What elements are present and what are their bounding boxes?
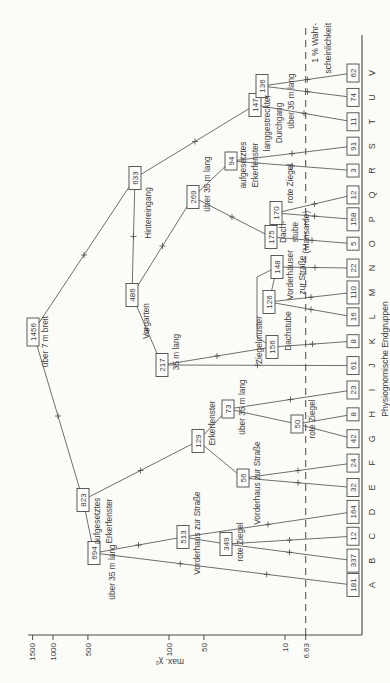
end-group-count: 32 [349,482,358,491]
cluster-node-count: 94 [227,156,236,165]
cluster-node-attribute-label: Erkerfenster [250,142,260,187]
end-group-count: 62 [349,68,358,77]
cluster-node-count: 56 [239,473,248,482]
cluster-node-count: 126 [265,295,274,309]
cluster-node-attribute-label: über 35 m lang [237,379,247,435]
cluster-node-attribute-label: über 35 m lang [286,73,296,129]
end-group-count: 23 [349,385,358,394]
cluster-node-count: 148 [273,260,282,274]
cluster-node-attribute-label: Vorderhaus zur Straße [252,441,262,525]
y-axis-tick-label-significance: 6.63 [302,642,311,658]
cluster-node-attribute-label: (Mansarde) [301,211,311,254]
cluster-node-attribute-label: Vorgarten [141,303,151,339]
end-group-count: 91 [349,141,358,150]
cluster-node-attribute-label: 35 m lang [171,333,181,370]
cluster-node-count: 269 [189,190,198,204]
end-group-letter: G [367,435,377,442]
end-group-count: 12 [349,531,358,540]
end-group-count: 61 [349,361,358,370]
cluster-node-attribute-label: stube [290,221,300,242]
cluster-node-count: 1456 [29,323,38,341]
cluster-node-attribute-label: über 35 m lang [202,156,212,212]
scanned-figure-page: 1 % Wahr-scheinlichkeit15001000500100501… [0,0,390,683]
end-group-letter: E [367,484,377,490]
cluster-node-attribute-label: Vorderhaus zur Straße [192,491,202,575]
cluster-node-count: 217 [158,358,167,372]
cluster-node-count: 73 [224,404,233,413]
cluster-node-count: 50 [293,419,302,428]
cluster-node-attribute-label: Hintereingang [143,187,153,239]
end-group-letter: H [367,411,377,418]
end-group-count: 164 [349,505,358,519]
end-group-letter: A [367,582,377,588]
end-group-letter: L [367,314,377,319]
cluster-node-count: 147 [251,98,260,112]
end-group-count: 181 [349,578,358,592]
y-axis-tick-label: 100 [165,642,174,656]
end-group-letter: B [367,558,377,564]
significance-label: 1 % Wahr- [310,23,320,63]
y-axis-tick-label: 50 [200,642,209,651]
cluster-node-count: 175 [267,230,276,244]
cluster-node-attribute-label: zur Straße [297,255,307,294]
end-group-letter: D [367,508,377,515]
cluster-node-count: 129 [194,434,203,448]
cluster-node-count: 136 [258,79,267,93]
end-group-letter: T [367,119,377,125]
cluster-node-count: 156 [268,340,277,354]
cluster-node-attribute-label: Dach- [278,221,288,243]
dendrogram-canvas-rotated: 1 % Wahr-scheinlichkeit15001000500100501… [0,0,390,683]
cluster-node-attribute-label: Vorderhäuser [285,250,295,300]
end-group-letter: C [367,532,377,539]
end-group-count: 22 [349,263,358,272]
y-axis-tick-label: 500 [84,642,93,656]
end-group-count: 110 [349,286,358,299]
end-group-letter: J [367,363,377,368]
end-group-count: 3 [349,168,358,173]
x-axis-title: Physiognomische Endgruppen [380,301,390,417]
end-group-letter: V [367,70,377,76]
cluster-node-attribute-label: Durchgang [274,102,284,143]
cluster-node-attribute-label: aufgesetztes [92,497,102,544]
y-axis-tick-label: 1000 [49,642,58,660]
cluster-node-attribute-label: Ziegelmuster [254,316,264,364]
end-group-count: 5 [349,241,358,246]
cluster-node-attribute-label: Erkerfenster [104,498,114,543]
end-group-count: 12 [349,190,358,199]
end-group-letter: O [367,240,377,247]
cluster-node-attribute-label: rote Ziegel [235,522,245,561]
cluster-node-attribute-label: aufgesetztes [238,141,248,188]
end-group-count: 158 [349,212,358,226]
cluster-node-attribute-label: rote Ziegel [285,164,295,203]
cluster-node-count: 349 [222,537,231,551]
y-axis-title: max. χ² [156,657,184,667]
cluster-node-count: 513 [179,530,188,544]
cluster-node-count: 633 [131,171,140,185]
end-group-letter: S [367,143,377,149]
end-group-count: 42 [349,434,358,443]
cluster-node-attribute-label: über 35 m lang [107,544,117,600]
end-group-letter: P [367,216,377,222]
cluster-node-count: 486 [128,288,137,302]
cluster-node-attribute-label: Erkerfenster [207,400,217,445]
end-group-letter: U [367,94,377,101]
cluster-node-attribute-label: rote Ziegel [307,399,317,438]
end-group-letter: I [367,389,377,392]
end-group-count: 24 [349,458,358,467]
end-group-count: 11 [349,117,358,126]
end-group-count: 8 [349,338,358,343]
cluster-node-count: 823 [79,493,88,507]
dendrogram-edge [94,553,353,585]
end-group-letter: Q [367,191,377,198]
cluster-node-count: 170 [272,206,281,220]
y-axis-tick-label: 10 [281,642,290,651]
cluster-node-attribute-label: über 7 m breit [40,315,50,367]
end-group-letter: F [367,460,377,466]
cluster-node-count: 694 [90,546,99,560]
end-group-letter: N [367,265,377,272]
end-group-letter: K [367,338,377,344]
significance-label: scheinlichkeit [323,22,333,73]
cluster-node-attribute-label: Dachstube [283,311,293,351]
end-group-count: 16 [349,312,358,321]
dendrogram-svg: 1 % Wahr-scheinlichkeit15001000500100501… [0,0,390,683]
